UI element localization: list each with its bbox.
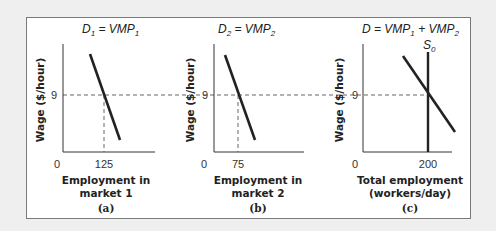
panel-b-caption: (b) — [249, 202, 266, 214]
panel-b-x-tick: 75 — [232, 158, 244, 170]
panel-a-y-label: Wage ($/hour) — [34, 58, 46, 143]
panel-a-caption: (a) — [98, 202, 115, 214]
panel-a-title: D1 = VMP1 — [82, 22, 139, 38]
panel-c: D = VMP1 + VMP2 S0 Wage ($/hour) 9 0 200… — [333, 22, 463, 214]
panel-c-x-tick: 200 — [419, 158, 437, 170]
panel-a-x-label-2: market 1 — [79, 187, 132, 199]
panel-c-title: D = VMP1 + VMP2 — [362, 22, 460, 38]
panel-b-y-label: Wage ($/hour) — [184, 58, 196, 143]
panel-a-x-label-1: Employment in — [62, 174, 151, 186]
panel-a-demand-curve — [90, 54, 120, 140]
panel-c-origin: 0 — [352, 158, 358, 170]
panel-c-y-label: Wage ($/hour) — [333, 58, 345, 143]
labor-market-diagram: D1 = VMP1 Wage ($/hour) 9 0 125 Employme… — [0, 0, 496, 231]
panel-c-y-tick: 9 — [352, 89, 358, 101]
panel-b-x-label-2: market 2 — [231, 187, 284, 199]
panel-b-demand-curve — [225, 55, 255, 140]
panel-a-y-tick: 9 — [51, 89, 57, 101]
panel-b-title: D2 = VMP2 — [218, 22, 276, 38]
panel-a-x-tick: 125 — [95, 158, 113, 170]
panel-a-origin: 0 — [54, 158, 60, 170]
supply-label: S0 — [423, 38, 436, 54]
panel-c-caption: (c) — [402, 202, 418, 214]
panel-c-x-label-2: (workers/day) — [369, 187, 451, 199]
panel-b-y-tick: 9 — [202, 89, 208, 101]
panel-b-origin: 0 — [201, 158, 207, 170]
panel-b: D2 = VMP2 Wage ($/hour) 9 0 75 Employmen… — [184, 22, 304, 214]
panel-a: D1 = VMP1 Wage ($/hour) 9 0 125 Employme… — [34, 22, 155, 214]
panel-c-x-label-1: Total employment — [357, 174, 463, 186]
panel-b-x-label-1: Employment in — [214, 174, 303, 186]
